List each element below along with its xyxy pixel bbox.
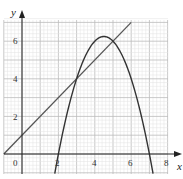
y-tick-6: 6 bbox=[13, 36, 18, 46]
origin-label: 0 bbox=[13, 158, 18, 168]
x-axis-label: x bbox=[176, 160, 182, 172]
x-axis-arrow-icon bbox=[174, 151, 182, 157]
x-tick-4: 4 bbox=[92, 158, 97, 168]
graph: y x 0 2 4 6 8 2 4 6 bbox=[0, 0, 183, 179]
y-axis-arrow-icon bbox=[19, 10, 25, 18]
x-tick-2: 2 bbox=[55, 158, 60, 168]
y-tick-2: 2 bbox=[13, 112, 18, 122]
y-tick-4: 4 bbox=[13, 74, 18, 84]
grid bbox=[4, 19, 168, 174]
line-series bbox=[4, 22, 131, 154]
x-tick-6: 6 bbox=[128, 158, 133, 168]
y-axis-label: y bbox=[10, 6, 16, 18]
x-tick-8: 8 bbox=[164, 158, 169, 168]
